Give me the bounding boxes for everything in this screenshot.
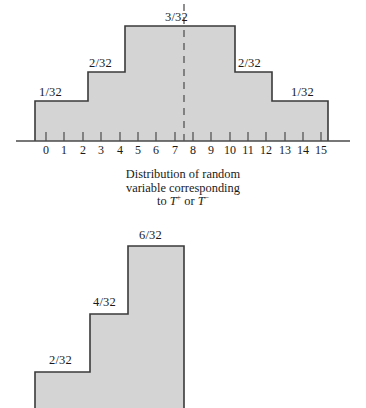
figure-stage: 1/32 2/32 3/32 2/32 1/32 0 1 2 3 4 5 6 7… bbox=[0, 0, 366, 408]
x-tick-label-14: 14 bbox=[293, 143, 313, 158]
x-tick-label-4: 4 bbox=[112, 143, 128, 158]
x-tick-label-1: 1 bbox=[56, 143, 72, 158]
x-tick-label-0: 0 bbox=[38, 143, 54, 158]
x-tick-label-10: 10 bbox=[220, 143, 240, 158]
top-bar-label-4: 2/32 bbox=[238, 56, 261, 71]
bottom-chart: 2/32 4/32 6/32 bbox=[0, 228, 366, 408]
top-bar-label-3: 3/32 bbox=[165, 10, 188, 25]
bottom-histogram-area bbox=[35, 246, 184, 408]
bottom-bar-label-2: 4/32 bbox=[93, 295, 116, 310]
x-tick-label-12: 12 bbox=[256, 143, 276, 158]
caption-sup-minus: − bbox=[205, 193, 210, 202]
caption-line-3: to T+ or T− bbox=[0, 195, 366, 209]
top-histogram-area bbox=[35, 26, 328, 141]
x-tick-label-13: 13 bbox=[275, 143, 295, 158]
caption-t-plus: T bbox=[170, 194, 177, 208]
x-tick-label-3: 3 bbox=[93, 143, 109, 158]
x-tick-label-2: 2 bbox=[75, 143, 91, 158]
x-tick-label-9: 9 bbox=[203, 143, 219, 158]
top-bar-label-5: 1/32 bbox=[291, 85, 314, 100]
bottom-bar-label-3: 6/32 bbox=[139, 228, 162, 243]
caption-line-1: Distribution of random bbox=[0, 168, 366, 182]
x-tick-label-11: 11 bbox=[238, 143, 258, 158]
top-bar-label-1: 1/32 bbox=[39, 85, 62, 100]
caption-prefix: to bbox=[157, 194, 170, 208]
x-tick-label-5: 5 bbox=[130, 143, 146, 158]
caption-mid: or bbox=[181, 194, 198, 208]
top-chart: 1/32 2/32 3/32 2/32 1/32 0 1 2 3 4 5 6 7… bbox=[0, 0, 366, 165]
x-tick-label-15: 15 bbox=[311, 143, 331, 158]
top-bar-label-2: 2/32 bbox=[89, 56, 112, 71]
x-tick-label-6: 6 bbox=[148, 143, 164, 158]
bottom-bar-label-1: 2/32 bbox=[49, 353, 72, 368]
bottom-chart-svg bbox=[0, 228, 366, 408]
x-tick-label-8: 8 bbox=[185, 143, 201, 158]
top-chart-caption: Distribution of random variable correspo… bbox=[0, 168, 366, 209]
caption-t-minus: T bbox=[198, 194, 205, 208]
x-tick-label-7: 7 bbox=[167, 143, 183, 158]
